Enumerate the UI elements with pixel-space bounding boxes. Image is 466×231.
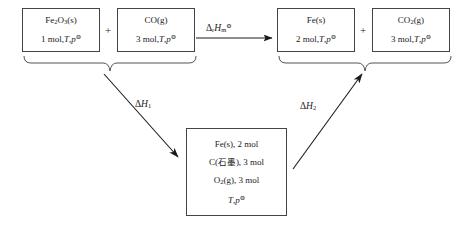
species-box-fe2o3: Fe2O3(s) 1 mol,T,p⊖ <box>22 8 100 52</box>
intermediate-line-conditions: T,p⊖ <box>228 195 245 205</box>
label-delta-r-h-m-standard: ΔrHm⊖ <box>206 23 232 34</box>
brace-products <box>279 56 451 71</box>
label-delta-h2: ΔH2 <box>300 102 316 112</box>
species-formula-fe2o3: Fe2O3(s) <box>45 16 77 26</box>
species-box-co2: CO2(g) 3 mol,T,p⊖ <box>372 8 450 52</box>
arrow-delta-h1 <box>104 74 178 157</box>
species-formula-co: CO(g) <box>145 16 168 25</box>
species-formula-co2: CO2(g) <box>398 16 424 26</box>
thermodynamic-cycle-diagram: Fe2O3(s) 1 mol,T,p⊖ + CO(g) 3 mol,T,p⊖ F… <box>0 0 466 231</box>
species-box-fe: Fe(s) 2 mol,T,p⊖ <box>277 8 355 52</box>
arrow-delta-h2 <box>293 74 362 169</box>
species-conditions-fe2o3: 1 mol,T,p⊖ <box>41 34 81 44</box>
species-conditions-co2: 3 mol,T,p⊖ <box>391 34 431 44</box>
species-conditions-co: 3 mol,T,p⊖ <box>136 34 176 44</box>
species-box-intermediate-elements: Fe(s), 2 mol C(石墨), 3 mol O2(g), 3 mol T… <box>186 128 287 216</box>
plus-sign-reactants: + <box>105 25 111 36</box>
brace-reactants <box>24 56 196 71</box>
species-conditions-fe: 2 mol,T,p⊖ <box>296 34 336 44</box>
intermediate-line-carbon-graphite: C(石墨), 3 mol <box>209 158 264 167</box>
species-formula-fe: Fe(s) <box>307 16 326 25</box>
intermediate-line-oxygen: O2(g), 3 mol <box>214 176 260 186</box>
species-box-co: CO(g) 3 mol,T,p⊖ <box>117 8 195 52</box>
plus-sign-products: + <box>360 25 366 36</box>
label-delta-h1: ΔH1 <box>135 100 151 110</box>
intermediate-line-fe: Fe(s), 2 mol <box>215 140 259 149</box>
